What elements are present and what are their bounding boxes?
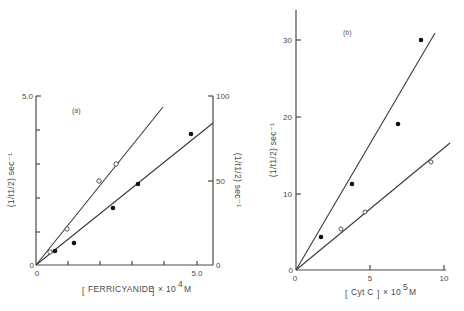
panel-a-y-tick-5: 5.0: [22, 92, 34, 101]
panel-b-fit-line-filled: [296, 33, 435, 270]
data-point: [350, 182, 355, 187]
panel-b-x-ticks: [370, 265, 444, 270]
panel-a-x-tick-5: 5.0: [191, 269, 203, 278]
panel-a-x-axis-title: [ FERRICYANIDE ] × 10 4 M: [82, 279, 191, 296]
data-point: [53, 249, 58, 254]
data-point: [114, 162, 118, 166]
panel-a-x-title-unit: M: [184, 284, 191, 294]
panel-a-right-ticks: [208, 96, 213, 181]
data-point: [319, 235, 324, 240]
bracket-close: ]: [377, 289, 380, 299]
panel-b-y-axis-title: (1/t1/2) sec⁻¹: [268, 123, 278, 178]
bracket-open: [: [82, 286, 85, 296]
data-point: [111, 206, 116, 211]
panel-b-x-title-main: Cyt C: [351, 287, 374, 297]
panel-a: 5.0 0 0 5.0 100 50 0 (a) (1/t1/2) sec⁻¹ …: [6, 92, 243, 296]
data-point: [429, 160, 433, 164]
panel-a-x-title-exp: 4: [178, 279, 183, 289]
panel-b-y-tick-20: 20: [283, 113, 292, 122]
panel-a-fit-line-filled: [36, 123, 213, 265]
panel-a-x-title-suffix: × 10: [158, 284, 176, 294]
panel-a-yr-tick-0: 0: [216, 261, 221, 270]
panel-a-fit-line-open: [36, 107, 163, 265]
bracket-open: [: [345, 289, 348, 299]
data-point: [65, 227, 69, 231]
data-point: [189, 132, 194, 137]
panel-b-x-title-exp: 5: [403, 282, 408, 292]
bracket-close: ]: [152, 286, 155, 296]
data-point: [339, 227, 343, 231]
data-point: [48, 250, 52, 254]
panel-a-yr-tick-50: 50: [216, 177, 225, 186]
panel-a-yr-tick-100: 100: [216, 92, 230, 101]
figure: 5.0 0 0 5.0 100 50 0 (a) (1/t1/2) sec⁻¹ …: [0, 0, 464, 311]
panel-b-y-tick-30: 30: [283, 36, 292, 45]
panel-a-y-axis-title: (1/t1/2) sec⁻¹: [6, 153, 16, 208]
data-point: [419, 38, 424, 43]
panel-a-x-tick-0: 0: [35, 269, 40, 278]
panel-a-left-ticks: [36, 96, 41, 232]
panel-b-y-ticks: [296, 40, 301, 194]
data-point: [396, 122, 401, 127]
panel-b-x-tick-10: 10: [440, 274, 449, 283]
data-point: [363, 210, 367, 214]
panel-a-label: (a): [72, 107, 81, 115]
panel-b-x-axis-title: [ Cyt C ] × 10 5 M: [345, 282, 416, 299]
panel-b-y-tick-10: 10: [283, 190, 292, 199]
panel-b-x-title-suffix: × 10: [383, 287, 401, 297]
data-point: [97, 179, 101, 183]
panel-b-filled-points: [319, 38, 424, 240]
panel-b-fit-line-open: [296, 143, 450, 270]
data-point: [72, 241, 77, 246]
panel-a-x-title-main: FERRICYANIDE: [88, 284, 154, 294]
data-point: [136, 182, 141, 187]
panel-b: 30 20 10 0 0 5 10 (b) (1/t1/2) sec⁻¹ [ C…: [268, 10, 450, 299]
panel-b-x-tick-0: 0: [293, 274, 298, 283]
panel-b-label: (b): [343, 29, 352, 37]
panel-a-right-y-axis-title: (1/t1/2) sec⁻¹: [233, 153, 243, 208]
panel-b-x-tick-5: 5: [368, 274, 373, 283]
panel-b-x-title-unit: M: [409, 287, 416, 297]
